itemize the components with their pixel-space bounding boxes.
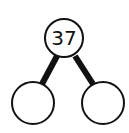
right-connector-line <box>75 56 93 84</box>
left-part-circle <box>12 82 54 124</box>
left-connector-line <box>42 56 57 84</box>
whole-circle: 37 <box>45 19 83 57</box>
right-part-circle <box>82 82 124 124</box>
number-bond-diagram: 37 <box>0 0 129 133</box>
whole-value: 37 <box>51 26 76 50</box>
